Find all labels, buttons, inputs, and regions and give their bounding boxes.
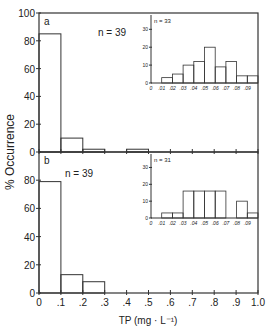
x-axis-label: TP (mg · L⁻¹) <box>119 315 178 326</box>
y-tick-label: 20 <box>24 260 36 271</box>
x-tick-label: .7 <box>188 297 197 308</box>
inset-histogram: 01020300.01.02.03.04.05.06.07.08.09n = 3… <box>142 15 258 91</box>
inset-bar <box>205 191 216 218</box>
inset-x-tick-label: .09 <box>244 85 251 91</box>
histogram-bar <box>83 282 105 293</box>
y-tick-label: 80 <box>24 175 36 186</box>
inset-x-tick-label: .03 <box>180 85 187 91</box>
inset-x-tick-label: 0 <box>150 220 153 226</box>
inset-sample-size: n = 33 <box>154 18 172 24</box>
x-tick-label: .3 <box>101 297 110 308</box>
inset-x-tick-label: .06 <box>212 85 219 91</box>
panel-label: a <box>44 16 50 27</box>
x-tick-label: .6 <box>166 297 175 308</box>
inset-x-tick-label: .08 <box>233 220 240 226</box>
sample-size-label: n = 39 <box>98 27 127 38</box>
inset-bar <box>215 67 226 83</box>
inset-y-tick-label: 0 <box>145 80 148 86</box>
x-tick-label: .1 <box>57 297 66 308</box>
inset-x-tick-label: .02 <box>169 220 176 226</box>
inset-x-tick-label: .05 <box>201 85 208 91</box>
inset-x-tick-label: .03 <box>180 220 187 226</box>
inset-bar <box>183 65 194 83</box>
inset-y-tick-label: 0 <box>145 215 148 221</box>
y-tick-label: 20 <box>24 119 36 130</box>
inset-bar <box>237 201 248 218</box>
inset-x-tick-label: .09 <box>244 220 251 226</box>
y-tick-label: 60 <box>24 64 36 75</box>
inset-bar <box>237 76 248 83</box>
y-axis-label: % Occurrence <box>3 114 17 190</box>
inset-x-tick-label: .06 <box>212 220 219 226</box>
x-tick-label: .5 <box>144 297 153 308</box>
y-tick-label: 40 <box>24 232 36 243</box>
inset-bar <box>215 191 226 218</box>
x-tick-label: .2 <box>79 297 88 308</box>
x-tick-label: 1.0 <box>251 297 265 308</box>
y-tick-label: 40 <box>24 91 36 102</box>
inset-y-tick-label: 20 <box>142 181 148 187</box>
inset-y-tick-label: 10 <box>142 62 148 68</box>
inset-bar <box>183 191 194 218</box>
inset-y-tick-label: 10 <box>142 198 148 204</box>
y-tick-label: 0 <box>29 147 35 158</box>
inset-histogram: 01020300.01.02.03.04.05.06.07.08.09n = 3… <box>142 154 258 226</box>
inset-sample-size: n = 31 <box>154 157 172 163</box>
inset-x-tick-label: .05 <box>201 220 208 226</box>
inset-bar <box>172 74 183 83</box>
x-tick-label: .4 <box>122 297 131 308</box>
inset-bar <box>226 62 237 83</box>
sample-size-label: n = 39 <box>65 168 94 179</box>
histogram-bar <box>39 34 61 152</box>
inset-x-tick-label: .02 <box>169 85 176 91</box>
histogram-bar <box>61 275 83 293</box>
inset-x-tick-label: .01 <box>158 85 165 91</box>
panel-b: 020406080bn = 3901020300.01.02.03.04.05.… <box>24 152 258 299</box>
inset-bar <box>194 191 205 218</box>
x-tick-label: 0 <box>36 297 42 308</box>
inset-x-tick-label: .07 <box>222 220 229 226</box>
panel-label: b <box>44 155 50 166</box>
inset-bar <box>172 213 183 218</box>
inset-bar <box>205 47 216 83</box>
inset-bar <box>162 78 173 83</box>
histogram-bar <box>39 182 61 293</box>
inset-x-tick-label: .04 <box>190 85 197 91</box>
inset-x-tick-label: .01 <box>158 220 165 226</box>
histogram-figure: 020406080100an = 3901020300.01.02.03.04.… <box>0 0 270 332</box>
histogram-bar <box>61 138 83 152</box>
x-tick-label: .9 <box>232 297 241 308</box>
panel-a: 020406080100an = 3901020300.01.02.03.04.… <box>18 8 258 158</box>
inset-y-tick-label: 20 <box>142 44 148 50</box>
inset-x-tick-label: .04 <box>190 220 197 226</box>
inset-x-tick-label: .08 <box>233 85 240 91</box>
y-tick-label: 0 <box>29 288 35 299</box>
y-tick-label: 80 <box>24 36 36 47</box>
inset-x-tick-label: .07 <box>222 85 229 91</box>
y-tick-label: 60 <box>24 203 36 214</box>
inset-x-tick-label: 0 <box>150 85 153 91</box>
x-tick-label: .8 <box>210 297 219 308</box>
inset-y-tick-label: 30 <box>142 164 148 170</box>
inset-bar <box>247 76 258 83</box>
inset-y-tick-label: 30 <box>142 26 148 32</box>
inset-bar <box>162 213 173 218</box>
inset-bar <box>194 62 205 83</box>
y-tick-label: 100 <box>18 8 35 19</box>
inset-bar <box>247 213 258 218</box>
